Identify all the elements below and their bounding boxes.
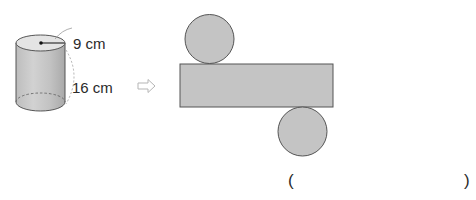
net-lateral-rectangle	[180, 64, 333, 107]
answer-blank[interactable]: ( )	[286, 170, 472, 194]
answer-open-paren: (	[288, 172, 294, 189]
net-top-circle	[185, 15, 234, 64]
cylinder-net	[180, 15, 333, 157]
radius-label: 9 cm	[73, 36, 106, 51]
cylinder-body	[16, 43, 65, 111]
hollow-right-arrow-icon	[138, 80, 155, 93]
answer-close-paren: )	[464, 172, 470, 189]
cylinder-figure	[16, 28, 74, 111]
net-bottom-circle	[278, 107, 327, 156]
height-label: 16 cm	[72, 80, 113, 95]
cylinder-net-diagram: 9 cm 16 cm ( )	[0, 0, 476, 200]
center-dot	[39, 41, 43, 45]
